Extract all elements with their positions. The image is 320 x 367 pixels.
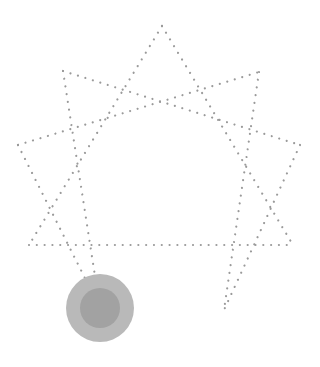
position-marker bbox=[66, 274, 134, 342]
enneagram-diagram bbox=[0, 0, 320, 367]
dotted-line-upper-right-to-low-right bbox=[224, 72, 259, 310]
dotted-line-top-to-bottom-right bbox=[162, 26, 293, 245]
dotted-line-upper-left-to-low-left bbox=[63, 71, 100, 308]
dotted-lines-group bbox=[18, 26, 300, 310]
dotted-line-upper-left-to-right bbox=[63, 71, 300, 145]
dotted-line-left-to-upper-right bbox=[18, 72, 259, 145]
marker-inner-circle bbox=[80, 288, 120, 328]
dotted-line-top-to-bottom-left bbox=[29, 26, 162, 245]
dotted-line-right-to-low-right bbox=[224, 145, 300, 310]
